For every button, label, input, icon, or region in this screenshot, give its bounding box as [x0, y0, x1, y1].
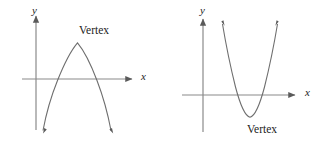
parabola-curve-left	[43, 43, 111, 131]
y-axis-label-right: y	[200, 5, 205, 16]
parabola-graph-left	[0, 0, 160, 141]
figure-container: y x Vertex y x Vertex	[0, 0, 321, 141]
curve-arrow-right-down	[109, 128, 113, 134]
parabola-curve-right	[223, 24, 278, 117]
parabola-panel-right: y x Vertex	[160, 0, 321, 141]
parabola-panel-left: y x Vertex	[0, 0, 160, 141]
vertex-label-left: Vertex	[79, 24, 109, 36]
vertex-label-right: Vertex	[247, 123, 277, 135]
parabola-graph-right	[160, 0, 321, 141]
x-axis-label-left: x	[141, 71, 146, 82]
y-axis-label-left: y	[32, 5, 37, 16]
x-axis-label-right: x	[305, 87, 310, 98]
